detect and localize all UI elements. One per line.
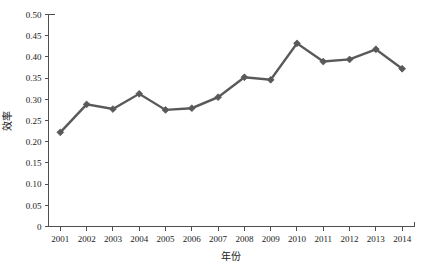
y-tick-label: 0.05 <box>26 201 42 211</box>
line-chart-canvas: 0.500.450.400.350.300.250.200.150.100.05… <box>0 0 428 266</box>
y-tick-label: 0.25 <box>26 116 42 126</box>
data-point-marker <box>188 105 195 112</box>
y-tick-label: 0.35 <box>26 73 42 83</box>
y-tick-label: 0.50 <box>26 10 42 20</box>
x-tick-label: 2007 <box>209 234 228 244</box>
x-tick-label: 2004 <box>130 234 149 244</box>
y-tick-label: 0.30 <box>26 95 42 105</box>
series-line-efficiency <box>60 43 402 132</box>
x-tick-label: 2001 <box>51 234 69 244</box>
x-tick-label: 2008 <box>235 234 254 244</box>
x-tick-label: 2005 <box>157 234 176 244</box>
x-tick-label: 2003 <box>104 234 123 244</box>
y-axis-title: 效率 <box>1 111 13 131</box>
y-tick-label: 0.15 <box>26 158 42 168</box>
chart-figure: 0.500.450.400.350.300.250.200.150.100.05… <box>0 0 428 266</box>
x-tick-label: 2013 <box>367 234 386 244</box>
y-tick-label: 0.40 <box>26 52 42 62</box>
y-tick-label: 0.10 <box>26 179 42 189</box>
y-tick-label: 0.45 <box>26 31 42 41</box>
y-tick-label: 0 <box>37 222 42 232</box>
x-tick-label: 2002 <box>78 234 96 244</box>
x-tick-label: 2006 <box>183 234 202 244</box>
x-tick-label: 2011 <box>314 234 332 244</box>
x-axis-line <box>49 222 415 227</box>
x-tick-label: 2009 <box>262 234 281 244</box>
data-point-marker <box>346 56 353 63</box>
y-tick-label: 0.20 <box>26 137 42 147</box>
x-tick-label: 2014 <box>393 234 412 244</box>
x-tick-label: 2012 <box>341 234 359 244</box>
x-axis-title: 年份 <box>221 250 241 262</box>
y-axis-line <box>49 15 55 227</box>
x-tick-label: 2010 <box>288 234 307 244</box>
